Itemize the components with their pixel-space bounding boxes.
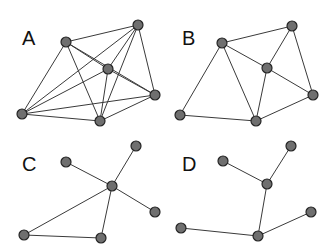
panel-label-b: B — [182, 27, 195, 49]
panel-label-c: C — [22, 153, 36, 175]
graph-node — [61, 157, 71, 167]
graph-node — [176, 223, 186, 233]
graph-node — [133, 20, 143, 30]
panel-label-a: A — [22, 27, 36, 49]
graph-figure-svg: ABCD — [0, 0, 331, 252]
graph-node — [19, 230, 29, 240]
graph-node — [96, 233, 106, 243]
graph-node — [253, 231, 263, 241]
graph-node — [175, 110, 185, 120]
graph-node — [61, 37, 71, 47]
graph-node — [107, 181, 117, 191]
graph-node — [286, 141, 296, 151]
graph-node — [131, 141, 141, 151]
graph-node — [150, 90, 160, 100]
graph-figure: ABCD — [0, 0, 331, 252]
graph-node — [17, 109, 27, 119]
graph-node — [262, 63, 272, 73]
graph-node — [150, 207, 160, 217]
panel-label-d: D — [182, 153, 196, 175]
figure-background — [0, 0, 331, 252]
graph-node — [103, 64, 113, 74]
graph-node — [218, 156, 228, 166]
graph-node — [306, 207, 316, 217]
graph-node — [95, 116, 105, 126]
graph-node — [287, 21, 297, 31]
graph-node — [308, 90, 318, 100]
graph-node — [251, 116, 261, 126]
graph-node — [262, 179, 272, 189]
graph-node — [217, 38, 227, 48]
